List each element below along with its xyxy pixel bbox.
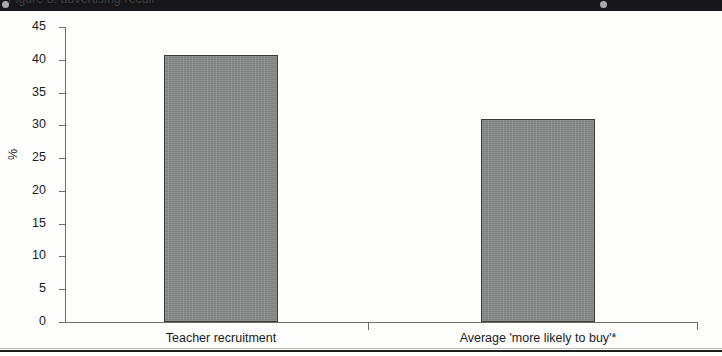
y-tick-label: 0 — [0, 314, 46, 328]
y-tick-label: 25 — [0, 150, 46, 164]
y-tick-mark — [59, 256, 65, 257]
y-tick-label: 40 — [0, 52, 46, 66]
y-tick-label: 30 — [0, 117, 46, 131]
y-tick-label: 5 — [0, 281, 46, 295]
y-tick-mark — [59, 322, 65, 323]
y-axis-line — [65, 27, 66, 323]
category-label: Average 'more likely to buy'* — [460, 331, 617, 345]
figure-container: Figure 8: advertising recall % 454035302… — [0, 0, 722, 356]
figure-bottom-rule — [0, 350, 722, 352]
y-tick-mark — [59, 158, 65, 159]
bar[interactable] — [164, 55, 278, 322]
y-tick-mark — [59, 93, 65, 94]
y-tick-label: 15 — [0, 216, 46, 230]
y-tick-label: 35 — [0, 85, 46, 99]
x-axis-line — [65, 322, 698, 323]
y-tick-label: 20 — [0, 183, 46, 197]
y-tick-mark — [59, 289, 65, 290]
y-tick-mark — [59, 125, 65, 126]
x-axis-separator-tick — [368, 323, 369, 330]
bar-chart-plot: % 454035302520151050 Teacher recruitment… — [0, 0, 722, 356]
bar[interactable] — [481, 119, 595, 322]
y-tick-mark — [59, 224, 65, 225]
y-tick-label: 45 — [0, 19, 46, 33]
y-tick-mark — [59, 60, 65, 61]
y-tick-label: 10 — [0, 248, 46, 262]
figure-bottom-rule-soft — [0, 348, 722, 349]
category-label: Teacher recruitment — [166, 331, 276, 345]
y-tick-mark — [59, 27, 65, 28]
y-tick-mark — [59, 191, 65, 192]
x-axis-end-tick — [697, 323, 698, 330]
